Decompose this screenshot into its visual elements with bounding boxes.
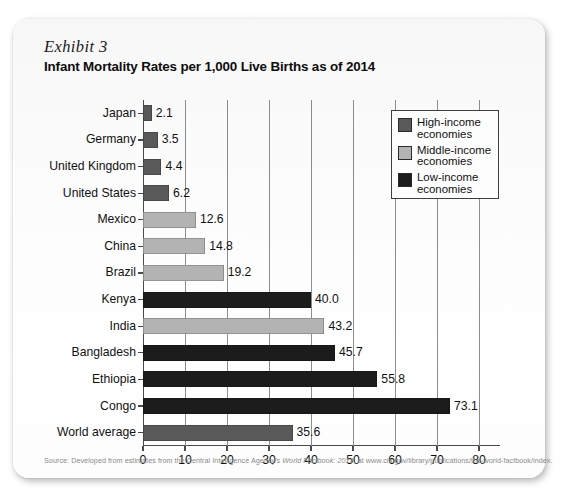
bar-value-label: 45.7	[339, 344, 363, 361]
category-label: Ethiopia	[92, 370, 136, 389]
chart-bar-row: Congo73.1	[143, 393, 500, 420]
chart-bar	[143, 185, 169, 201]
bar-value-label: 12.6	[200, 211, 224, 228]
source-note: Source: Developed from estimates from th…	[44, 456, 553, 465]
legend-label: Middle-income economies	[417, 145, 491, 169]
category-label: India	[110, 317, 136, 336]
chart-bar	[143, 292, 311, 308]
bar-value-label: 3.5	[162, 131, 179, 148]
bar-value-label: 55.8	[381, 371, 405, 388]
bar-value-label: 14.8	[209, 238, 233, 255]
category-label: World average	[57, 423, 136, 442]
bar-value-label: 19.2	[228, 264, 252, 281]
chart-bar	[143, 425, 293, 441]
bar-value-label: 4.4	[165, 158, 182, 175]
x-axis-tick	[268, 446, 269, 451]
x-axis-tick	[184, 446, 185, 451]
chart-bar	[143, 105, 152, 121]
x-axis-tick	[142, 446, 143, 451]
x-axis-tick	[478, 446, 479, 451]
x-axis-tick	[394, 446, 395, 451]
chart-bar	[143, 238, 205, 254]
chart-bar-row: Ethiopia55.8	[143, 366, 500, 393]
category-label: Germany	[86, 130, 136, 149]
x-axis-tick	[352, 446, 353, 451]
chart-bar-row: World average35.6	[143, 419, 500, 446]
legend-item: Middle-income economies	[399, 145, 498, 169]
chart-bar	[143, 212, 196, 228]
legend-item: Low-income economies	[399, 172, 498, 196]
chart-bar	[143, 345, 335, 361]
chart-bar	[143, 318, 324, 334]
chart-bar-row: Bangladesh45.7	[143, 340, 500, 367]
chart-bar	[143, 159, 161, 175]
category-label: China	[104, 237, 136, 256]
x-axis-tick	[436, 446, 437, 451]
page-title: Infant Mortality Rates per 1,000 Live Bi…	[44, 59, 375, 74]
category-label: Kenya	[101, 290, 136, 309]
legend-swatch-high	[399, 119, 411, 131]
bar-value-label: 73.1	[454, 398, 478, 415]
chart-bar	[143, 371, 377, 387]
legend-label: High-income economies	[417, 117, 481, 141]
category-label: Congo	[100, 397, 136, 416]
category-label: Brazil	[106, 263, 136, 282]
bar-value-label: 35.6	[297, 424, 321, 441]
x-axis-tick	[310, 446, 311, 451]
exhibit-card: Exhibit 3 Infant Mortality Rates per 1,0…	[13, 19, 545, 478]
legend-label: Low-income economies	[417, 172, 478, 196]
exhibit-number-label: Exhibit 3	[44, 37, 108, 57]
legend-swatch-middle	[399, 147, 411, 159]
source-title: World Factbook: 2015	[282, 456, 353, 465]
chart-bar	[143, 132, 158, 148]
legend-item: High-income economies	[399, 117, 498, 141]
chart-bar-row: China14.8	[143, 233, 500, 260]
category-label: United States	[63, 184, 136, 203]
chart-bar-row: Brazil19.2	[143, 260, 500, 287]
category-label: Japan	[103, 104, 136, 123]
bar-value-label: 2.1	[156, 105, 173, 122]
category-label: Bangladesh	[72, 343, 136, 362]
category-label: Mexico	[97, 210, 136, 229]
legend-swatch-low	[399, 174, 411, 186]
chart-bar-row: Kenya40.0	[143, 286, 500, 313]
chart-legend: High-income economiesMiddle-income econo…	[391, 110, 499, 199]
bar-value-label: 43.2	[328, 318, 352, 335]
category-label: United Kingdom	[49, 157, 136, 176]
chart-bar	[143, 398, 450, 414]
chart-bar-row: India43.2	[143, 313, 500, 340]
chart-bar-row: Mexico12.6	[143, 206, 500, 233]
x-axis-tick	[226, 446, 227, 451]
chart-bar	[143, 265, 224, 281]
bar-value-label: 40.0	[315, 291, 339, 308]
bar-value-label: 6.2	[173, 185, 190, 202]
